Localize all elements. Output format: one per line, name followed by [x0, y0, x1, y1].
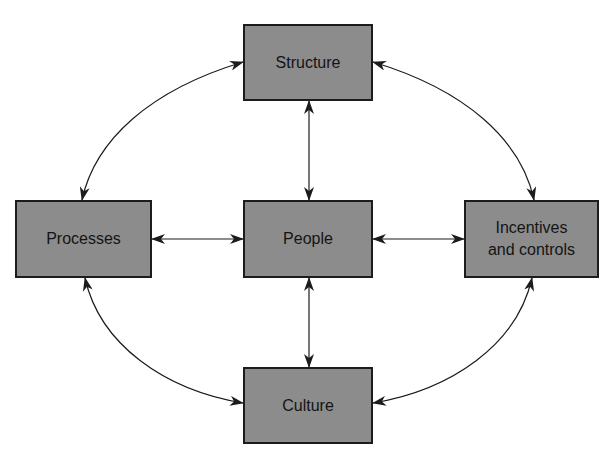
node-structure: Structure: [243, 24, 373, 101]
node-culture-label: Culture: [282, 395, 334, 417]
node-incentives-label: Incentives and controls: [488, 217, 575, 261]
arrow-structure-processes: [82, 62, 243, 200]
node-people-label: People: [283, 228, 333, 250]
node-structure-label: Structure: [276, 52, 341, 74]
node-processes-label: Processes: [46, 228, 121, 250]
arrow-incentives-culture: [373, 278, 532, 403]
arrow-processes-culture: [85, 278, 243, 403]
organizational-elements-diagram: Structure Processes People Incentives an…: [0, 0, 610, 459]
arrow-structure-incentives: [373, 62, 534, 200]
node-incentives-and-controls: Incentives and controls: [464, 200, 599, 278]
node-culture: Culture: [243, 367, 373, 444]
node-processes: Processes: [15, 200, 152, 278]
node-people: People: [243, 200, 373, 278]
